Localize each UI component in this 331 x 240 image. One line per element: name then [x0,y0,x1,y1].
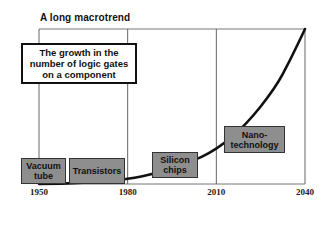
chart-callout: The growth in the number of logic gates … [21,43,137,84]
x-tick-label-2010: 2010 [207,187,225,197]
x-tick-label-1950: 1950 [30,187,48,197]
era-label-transistors: Transistors [69,158,125,184]
era-label-vacuum-tube: Vacuum tube [21,158,66,184]
x-tick-label-1980: 1980 [119,187,137,197]
era-label-nanotechnology: Nano- technology [224,126,285,153]
x-tick-label-2040: 2040 [296,187,314,197]
era-label-silicon-chips: Silicon chips [152,152,198,178]
